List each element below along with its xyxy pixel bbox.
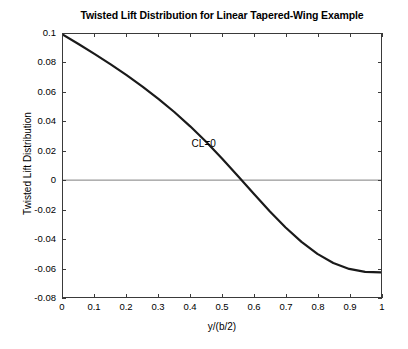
y-tick-left bbox=[62, 151, 66, 152]
y-tick-right bbox=[378, 210, 382, 211]
y-tick-left bbox=[62, 298, 66, 299]
annotation-cl-zero: CL=0 bbox=[192, 138, 216, 149]
plot-canvas bbox=[63, 34, 381, 297]
y-tick-label: 0 bbox=[51, 175, 56, 185]
y-axis-title: Twisted Lift Distribution bbox=[22, 84, 33, 244]
plot-area bbox=[62, 33, 382, 298]
x-tick-bottom bbox=[94, 294, 95, 298]
y-tick-right bbox=[378, 151, 382, 152]
x-tick-top bbox=[126, 33, 127, 37]
y-tick-label: 0.02 bbox=[38, 146, 57, 156]
y-tick-left bbox=[62, 62, 66, 63]
x-tick-top bbox=[350, 33, 351, 37]
x-tick-top bbox=[190, 33, 191, 37]
x-tick-label: 0.5 bbox=[215, 302, 228, 312]
x-tick-label: 0.9 bbox=[343, 302, 356, 312]
x-tick-top bbox=[286, 33, 287, 37]
y-tick-left bbox=[62, 92, 66, 93]
y-tick-left bbox=[62, 239, 66, 240]
x-tick-label: 0.7 bbox=[279, 302, 292, 312]
y-tick-right bbox=[378, 239, 382, 240]
x-tick-bottom bbox=[158, 294, 159, 298]
x-tick-bottom bbox=[126, 294, 127, 298]
x-tick-label: 0.8 bbox=[311, 302, 324, 312]
y-tick-label: 0.1 bbox=[43, 28, 56, 38]
x-tick-bottom bbox=[318, 294, 319, 298]
x-tick-bottom bbox=[382, 294, 383, 298]
x-tick-label: 0.2 bbox=[119, 302, 132, 312]
x-tick-label: 0.6 bbox=[247, 302, 260, 312]
x-tick-label: 0.1 bbox=[87, 302, 100, 312]
y-tick-left bbox=[62, 121, 66, 122]
x-tick-label: 0.3 bbox=[151, 302, 164, 312]
x-tick-top bbox=[222, 33, 223, 37]
x-tick-bottom bbox=[254, 294, 255, 298]
y-tick-right bbox=[378, 180, 382, 181]
y-tick-right bbox=[378, 92, 382, 93]
figure-canvas: Twisted Lift Distribution for Linear Tap… bbox=[0, 0, 408, 349]
x-tick-top bbox=[382, 33, 383, 37]
y-tick-label: -0.04 bbox=[34, 234, 56, 244]
x-tick-bottom bbox=[62, 294, 63, 298]
x-tick-top bbox=[94, 33, 95, 37]
y-tick-right bbox=[378, 298, 382, 299]
x-tick-top bbox=[318, 33, 319, 37]
y-tick-right bbox=[378, 269, 382, 270]
x-axis-title: y/(b/2) bbox=[62, 321, 382, 332]
x-tick-bottom bbox=[222, 294, 223, 298]
y-tick-left bbox=[62, 269, 66, 270]
x-tick-label: 0.4 bbox=[183, 302, 196, 312]
page-title: Twisted Lift Distribution for Linear Tap… bbox=[62, 9, 382, 21]
y-tick-right bbox=[378, 62, 382, 63]
y-tick-label: -0.06 bbox=[34, 264, 56, 274]
x-tick-top bbox=[62, 33, 63, 37]
x-tick-bottom bbox=[286, 294, 287, 298]
x-tick-top bbox=[254, 33, 255, 37]
data-series-line bbox=[63, 35, 381, 273]
x-tick-bottom bbox=[350, 294, 351, 298]
x-tick-top bbox=[158, 33, 159, 37]
y-tick-label: 0.04 bbox=[38, 116, 57, 126]
x-tick-label: 0 bbox=[59, 302, 64, 312]
y-tick-left bbox=[62, 180, 66, 181]
y-tick-label: -0.02 bbox=[34, 205, 56, 215]
y-tick-right bbox=[378, 121, 382, 122]
x-tick-bottom bbox=[190, 294, 191, 298]
y-tick-label: 0.08 bbox=[38, 57, 57, 67]
y-tick-left bbox=[62, 210, 66, 211]
y-tick-label: -0.08 bbox=[34, 293, 56, 303]
y-tick-label: 0.06 bbox=[38, 87, 57, 97]
x-tick-label: 1 bbox=[379, 302, 384, 312]
